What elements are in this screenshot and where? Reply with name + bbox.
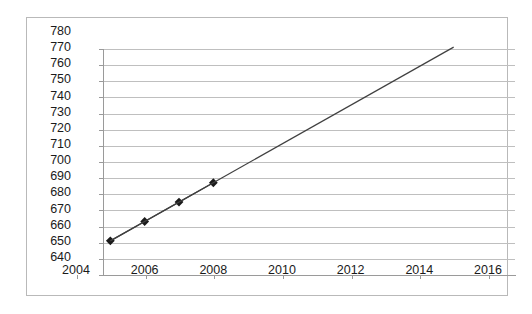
series-layer [0,0,532,314]
series-line-trendline [110,47,453,241]
